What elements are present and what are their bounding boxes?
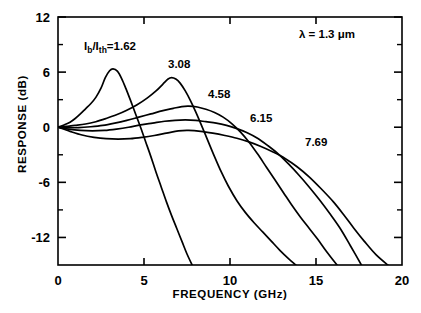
y-tick-label: -6: [38, 175, 50, 190]
response-vs-frequency-chart: 05101520-12-60612: [0, 0, 421, 313]
y-tick-label: 6: [43, 65, 50, 80]
x-tick-label: 15: [309, 273, 323, 288]
curve-label-7-69: 7.69: [305, 136, 327, 148]
y-axis-title: RESPONSE (dB): [16, 64, 28, 184]
curve-3-08: [58, 78, 298, 267]
curve-label-3-08: 3.08: [168, 58, 190, 70]
x-axis-title: FREQUENCY (GHz): [58, 288, 402, 300]
curve-7-69: [58, 127, 390, 267]
y-tick-label: 12: [36, 10, 50, 25]
ratio-annotation: Ib/Ith=1.62: [84, 40, 136, 55]
curve-label-6-15: 6.15: [250, 112, 272, 124]
curve-1-62: [58, 69, 193, 267]
x-tick-label: 10: [223, 273, 237, 288]
figure-container: 05101520-12-60612 RESPONSE (dB) FREQUENC…: [0, 0, 421, 313]
y-tick-label: 0: [43, 120, 50, 135]
ratio-sub-th: th: [99, 45, 107, 55]
wavelength-annotation: λ = 1.3 μm: [299, 28, 355, 40]
ratio-value: =1.62: [107, 40, 136, 52]
y-tick-label: -12: [31, 230, 50, 245]
x-tick-label: 0: [54, 273, 61, 288]
curve-label-4-58: 4.58: [208, 88, 230, 100]
x-tick-label: 5: [140, 273, 147, 288]
x-tick-label: 20: [395, 273, 409, 288]
